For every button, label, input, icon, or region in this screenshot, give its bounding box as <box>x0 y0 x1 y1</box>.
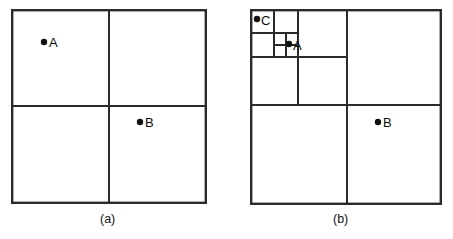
panel-b-point-b-label: B <box>383 116 392 129</box>
panel-b-point-a-label: A <box>293 39 302 52</box>
panel-b-point-c-label: C <box>261 14 270 27</box>
quadtree-figure: A B (a) C A B (b) <box>0 0 453 239</box>
panel-b-caption: (b) <box>333 212 348 226</box>
panel-b-point-c-dot <box>254 16 260 22</box>
panel-b-point-b-dot <box>375 119 381 125</box>
panel-b-point-a-dot <box>286 41 292 47</box>
